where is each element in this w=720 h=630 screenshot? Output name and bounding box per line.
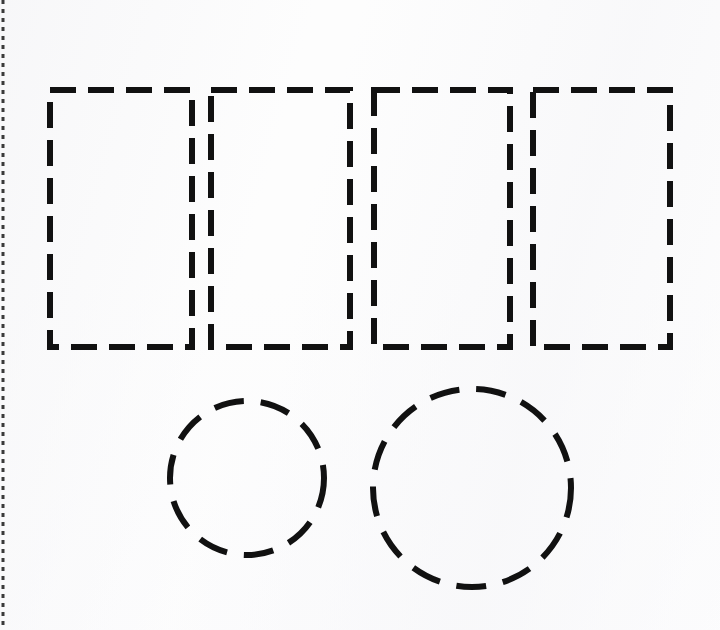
worksheet-canvas — [0, 0, 720, 630]
dashed-rectangle-2 — [211, 90, 350, 347]
dashed-circle-row — [170, 389, 571, 587]
dashed-shapes-drawing — [0, 0, 720, 630]
dashed-circle-large — [373, 389, 571, 587]
shape-layer — [0, 0, 720, 630]
dashed-rectangle-3 — [374, 90, 510, 347]
dashed-rectangle-4 — [533, 90, 670, 347]
dashed-circle-small — [170, 401, 324, 555]
dashed-rectangle-1 — [50, 90, 192, 347]
dashed-rectangle-row — [50, 90, 670, 347]
